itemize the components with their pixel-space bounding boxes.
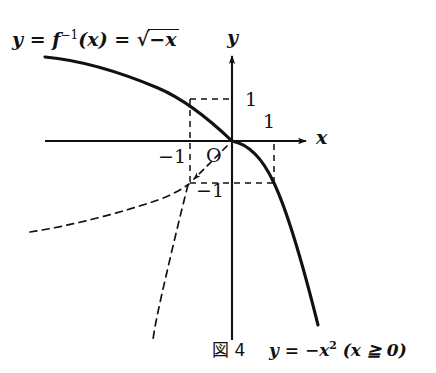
caption-eq-rhs: −x [305,340,329,360]
figure-number: 図 4 [212,340,245,360]
dashed-branch-steep [153,185,188,340]
math-figure: y = f−1(x) = √−x y x 1 1 −1 −1 O 図 4 y =… [0,0,436,373]
tick-label-x-negative-one: −1 [158,147,186,166]
eq-sign-1: = [30,28,46,50]
eq-sign-2: = [114,28,130,50]
axis-label-y: y [227,28,238,47]
eq-lhs: y [12,28,23,50]
caption-eq-exponent: 2 [329,339,337,352]
tick-label-x-one: 1 [263,112,275,131]
radicand: −x [148,29,178,49]
caption-eq-sign: = [285,340,299,360]
curve-equation-label: y = f−1(x) = √−x [12,28,179,49]
origin-label: O [206,146,222,165]
tick-label-y-negative-one: −1 [196,181,224,200]
dashed-branch-shallow [30,184,189,232]
curves-group [30,57,318,340]
caption-condition: (x ≧ 0) [343,340,407,360]
curve-neg-x-squared [232,141,318,325]
axis-label-x: x [316,128,327,147]
sqrt-radical: √−x [137,28,179,49]
eq-function-arg: (x) [78,28,107,50]
tick-label-y-one: 1 [245,90,257,109]
figure-caption: 図 4 y = −x2 (x ≧ 0) [212,341,407,359]
eq-function-exponent: −1 [60,28,78,42]
caption-eq-lhs: y [269,340,279,360]
